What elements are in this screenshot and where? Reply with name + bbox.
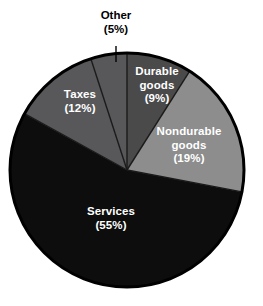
pie-chart-canvas xyxy=(0,0,263,306)
pie-label-other-name: Other xyxy=(74,8,158,22)
pie-label-other-value: (5%) xyxy=(74,22,158,36)
pie-chart: Other (5%) Durable goods (9%) Nondurable… xyxy=(0,0,263,306)
pie-label-other: Other (5%) xyxy=(74,8,158,36)
